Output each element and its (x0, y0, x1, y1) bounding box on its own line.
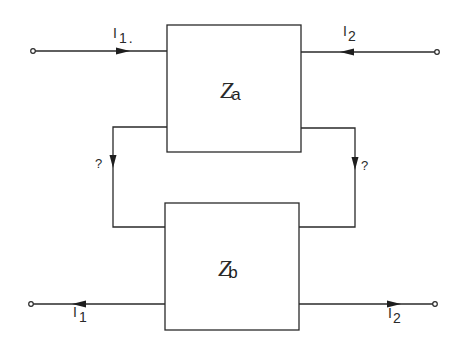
terminal-top-right (435, 50, 440, 55)
network-diagram: I1. I2 I1 I2 ? ? Za Zb (0, 0, 469, 347)
terminal-bottom-left (29, 302, 34, 307)
right-interconnect-wire (299, 128, 355, 227)
arrow-right-icon (116, 48, 130, 55)
arrow-down-icon (352, 157, 359, 170)
current-label-i2-top: I2 (343, 23, 356, 44)
current-label-i2-bottom: I2 (388, 305, 401, 326)
left-interconnect-wire (113, 127, 167, 227)
unknown-current-left: ? (95, 156, 102, 171)
arrow-down-icon (110, 155, 117, 168)
arrow-left-icon (340, 49, 354, 56)
current-label-i1-top: I1. (113, 25, 133, 46)
terminal-top-left (31, 49, 36, 54)
terminal-bottom-right (433, 302, 438, 307)
unknown-current-right: ? (361, 158, 368, 173)
